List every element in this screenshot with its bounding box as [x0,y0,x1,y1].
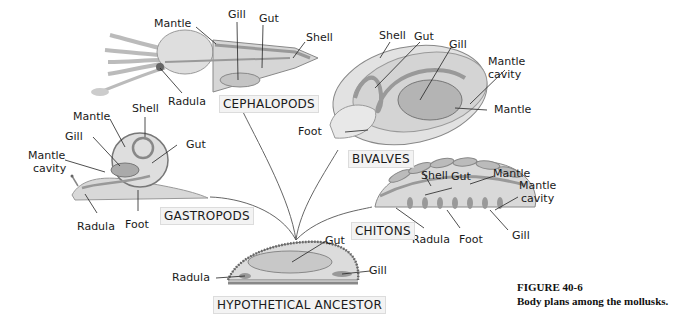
gastropod-label-foot: Foot [125,219,149,231]
bivalve-label-gill: Gill [449,39,467,51]
gastropod-label-gill: Gill [65,131,83,143]
bivalve-label-mantle-cavity-line2: cavity [488,69,521,81]
figure-title: FIGURE 40-6 [517,281,583,293]
gastropod-label-mantle-cavity-line1: Mantle [28,150,65,162]
chiton-label-gill: Gill [512,230,530,242]
bivalve-label-mantle: Mantle [494,104,531,116]
mollusk-body-plans-figure: Mantle Gill Gut Shell Radula CEPHALOPODS… [0,0,691,324]
gastropod-label-radula: Radula [77,221,115,233]
cephalopod-label-gill: Gill [228,9,246,21]
chiton-label-radula: Radula [412,234,450,246]
gastropod-label-mantle-cavity-line2: cavity [33,163,66,175]
bivalve-label-gut: Gut [414,31,434,43]
ancestor-label-radula: Radula [172,272,210,284]
ancestor-drawing [228,242,358,283]
chiton-label-mantle-cavity-line1: Mantle [519,180,556,192]
cephalopod-drawing [91,30,318,96]
figure-caption: Body plans among the mollusks. [517,295,668,307]
ancestor-group-label: HYPOTHETICAL ANCESTOR [213,296,386,314]
ancestor-label-gill: Gill [369,265,387,277]
cephalopod-label-gut: Gut [259,13,279,25]
gastropod-label-mantle: Mantle [73,111,110,123]
bivalve-label-mantle-cavity-line1: Mantle [488,56,525,68]
chitons-group-label: CHITONS [351,222,415,240]
bivalves-group-label: BIVALVES [348,150,414,168]
chiton-label-shell: Shell [421,170,448,182]
bivalve-label-shell: Shell [379,30,406,42]
diagram-artwork [0,0,691,324]
cephalopod-label-radula: Radula [168,96,206,108]
bivalve-label-foot: Foot [298,126,322,138]
cephalopods-group-label: CEPHALOPODS [219,95,319,113]
ancestor-label-gut: Gut [325,235,345,247]
cephalopod-label-mantle: Mantle [154,18,191,30]
chiton-label-mantle-cavity-line2: cavity [521,193,554,205]
cephalopod-label-shell: Shell [306,32,333,44]
bivalve-drawing [324,32,497,158]
chiton-label-foot: Foot [459,234,483,246]
gastropods-group-label: GASTROPODS [160,207,254,225]
chiton-label-gut: Gut [451,171,471,183]
gastropod-label-shell: Shell [132,103,159,115]
gastropod-label-gut: Gut [186,139,206,151]
